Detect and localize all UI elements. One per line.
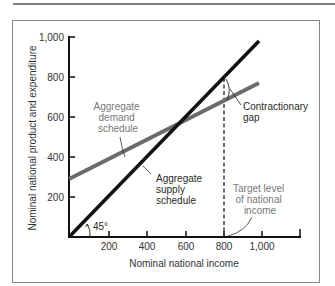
gap-annotation: Contractionary gap [243,101,311,123]
demand-annotation: Aggregate demand schedule [94,101,143,134]
y-tick-1000: 1,000 [39,32,64,43]
x-tick-200: 200 [101,241,118,252]
x-axis-title: Nominal national income [129,258,239,269]
y-tick-600: 600 [47,112,64,123]
x-tick-400: 400 [139,241,156,252]
x-tick-600: 600 [178,241,195,252]
chart-figure: Nominal national product and expenditure… [0,0,335,286]
angle-label: 45° [93,221,108,232]
target-pointer [228,217,252,236]
x-tick-1000: 1,000 [249,241,274,252]
supply-pointer [143,166,151,174]
y-tick-800: 800 [47,72,64,83]
y-tick-200: 200 [47,192,64,203]
x-tick-800: 800 [216,241,233,252]
target-annotation: Target level of national income [233,183,287,216]
aggregate-supply-line [69,41,259,237]
y-axis-title: Nominal national product and expenditure [27,45,38,231]
supply-annotation: Aggregate supply schedule [156,173,205,206]
y-tick-400: 400 [47,152,64,163]
